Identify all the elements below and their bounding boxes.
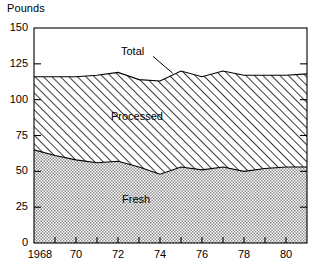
annotation-fresh: Fresh — [122, 193, 150, 205]
total-leader-line — [153, 56, 173, 73]
series-areas — [34, 71, 307, 243]
annotation-processed: Processed — [111, 110, 163, 122]
chart-figure: Pounds 1501251007550250 1 — [0, 0, 322, 273]
y-tick-label: 125 — [2, 57, 28, 69]
x-tick-label: 76 — [193, 248, 211, 260]
y-tick-label: 75 — [2, 129, 28, 141]
x-tick-label: 70 — [67, 248, 85, 260]
y-tick-label: 50 — [2, 164, 28, 176]
y-tick-label: 150 — [2, 21, 28, 33]
x-tick-label: 80 — [277, 248, 295, 260]
x-tick-label: 72 — [109, 248, 127, 260]
y-tick-label: 100 — [2, 93, 28, 105]
x-tick-label: 1968 — [25, 248, 55, 260]
y-tick-label: 25 — [2, 200, 28, 212]
area-processed — [34, 71, 307, 174]
x-tick-label: 74 — [151, 248, 169, 260]
annotation-total: Total — [121, 45, 144, 57]
area-chart-plot — [0, 0, 322, 273]
x-tick-label: 78 — [235, 248, 253, 260]
y-tick-label: 0 — [2, 236, 28, 248]
